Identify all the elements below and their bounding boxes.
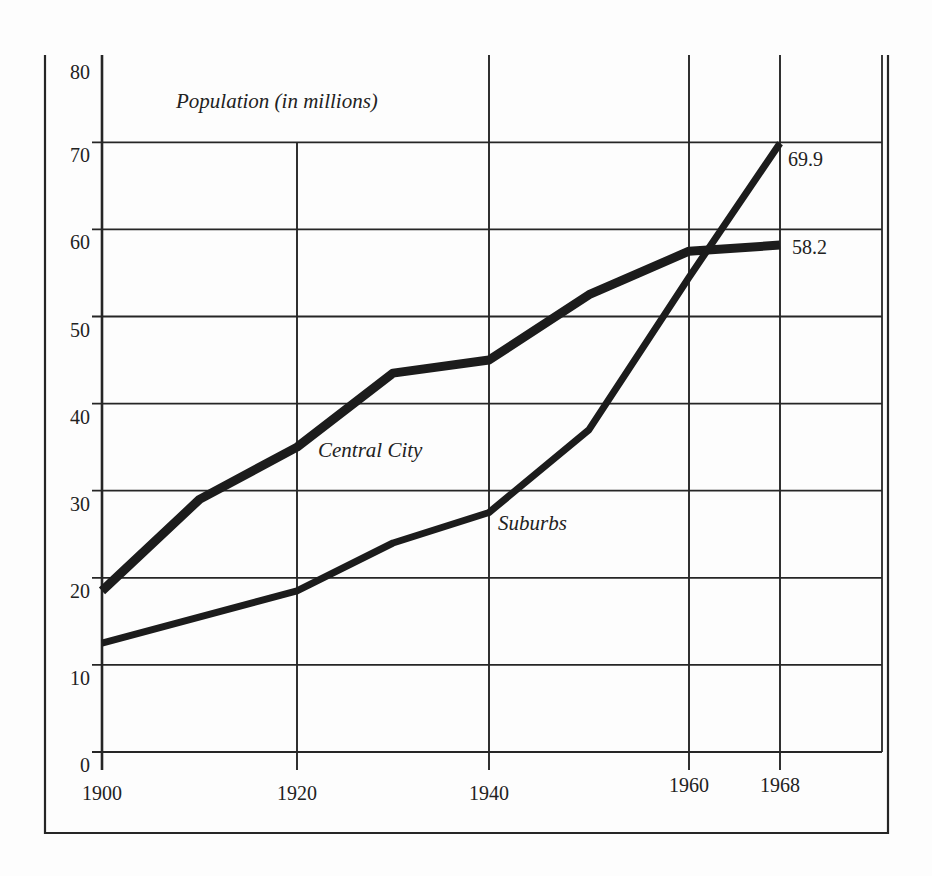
y-tick-label-20: 20 [70, 580, 90, 602]
y-tick-label-0: 0 [80, 754, 90, 776]
x-axis-ticks: 19001920194019601968 [82, 774, 800, 804]
data-series [102, 143, 780, 643]
x-tick-label-1960: 1960 [669, 774, 709, 796]
population-line-chart: 01020304050607080 19001920194019601968 P… [0, 0, 932, 876]
chart-title: Population (in millions) [175, 89, 378, 113]
y-tick-label-50: 50 [70, 319, 90, 341]
suburbs-label: Suburbs [498, 511, 567, 535]
y-tick-label-80: 80 [70, 61, 90, 83]
y-tick-label-40: 40 [70, 406, 90, 428]
y-axis-ticks: 01020304050607080 [70, 61, 90, 776]
y-tick-label-70: 70 [70, 144, 90, 166]
x-tick-label-1940: 1940 [469, 782, 509, 804]
x-tick-label-1900: 1900 [82, 782, 122, 804]
central-city-label: Central City [318, 438, 423, 462]
y-tick-label-60: 60 [70, 231, 90, 253]
suburbs-end-value: 69.9 [788, 148, 823, 170]
suburbs-line [102, 143, 780, 643]
y-tick-label-10: 10 [70, 667, 90, 689]
x-tick-label-1920: 1920 [277, 782, 317, 804]
central-city-end-value: 58.2 [792, 236, 827, 258]
x-tick-label-1968: 1968 [760, 774, 800, 796]
y-tick-label-30: 30 [70, 493, 90, 515]
